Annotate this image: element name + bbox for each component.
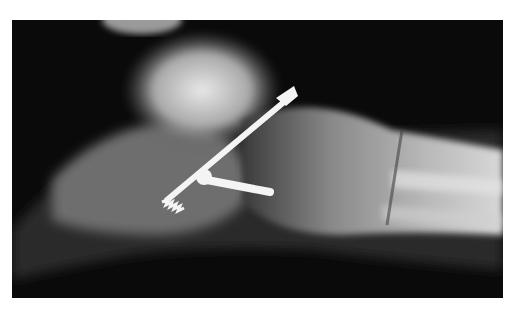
foot-radiograph [12, 20, 503, 298]
xray-image [12, 20, 503, 298]
tibia-end [102, 20, 182, 34]
